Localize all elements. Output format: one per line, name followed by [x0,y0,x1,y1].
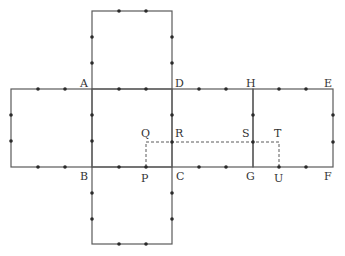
left-face [11,89,92,167]
label-R: R [175,127,184,140]
label-U: U [274,172,283,185]
diagram-canvas: A B C D E F G H P Q R S T U [0,0,345,256]
label-B: B [80,170,88,183]
label-S: S [242,127,250,140]
label-A: A [79,77,89,90]
label-D: D [175,77,184,90]
label-T: T [274,127,282,140]
net-outline [11,11,333,244]
label-Q: Q [141,127,150,140]
far-right-face [253,89,333,167]
label-C: C [176,170,184,183]
bottom-face [92,167,172,244]
top-face [92,11,172,89]
label-H: H [246,77,256,90]
dashed-path [146,142,279,167]
label-E: E [324,77,332,90]
right-face [172,89,253,167]
label-P: P [141,172,149,185]
label-G: G [246,170,255,183]
center-face [92,89,172,167]
point-labels: A B C D E F G H P Q R S T U [79,77,332,185]
label-F: F [324,170,332,183]
cube-net-diagram: A B C D E F G H P Q R S T U [0,0,345,256]
